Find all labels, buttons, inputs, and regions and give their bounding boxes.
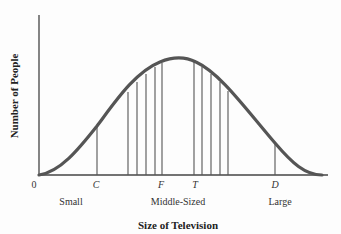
- x-tick-c: C: [93, 179, 100, 190]
- x-tick-t: T: [192, 179, 198, 190]
- y-axis-title: Number of People: [8, 54, 20, 139]
- x-tick-0: 0: [32, 179, 37, 190]
- x-tick-f: F: [158, 179, 164, 190]
- region-label-small: Small: [59, 196, 82, 207]
- region-label-middle-sized: Middle-Sized: [151, 196, 205, 207]
- x-axis-title: Size of Television: [138, 219, 218, 231]
- chart-figure: Number of People 0 C F T D Small Middle-…: [0, 0, 341, 234]
- region-label-large: Large: [268, 196, 291, 207]
- bell-curve: [39, 58, 322, 175]
- x-tick-d: D: [271, 179, 278, 190]
- vertical-marker-lines: [97, 62, 275, 175]
